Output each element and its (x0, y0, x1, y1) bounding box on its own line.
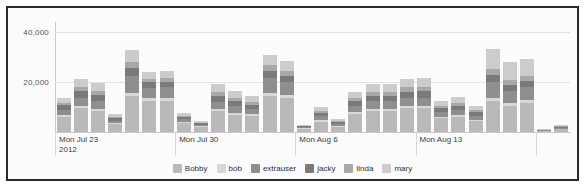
bar-stack[interactable] (554, 125, 568, 132)
legend-item[interactable]: linda (344, 164, 373, 173)
bar-segment (125, 76, 139, 93)
legend-label: Bobby (185, 164, 208, 173)
bar-segment (486, 101, 500, 132)
bar-segment (280, 76, 294, 83)
plot-area: 20,00040,000 (55, 22, 570, 132)
x-axis-group-label: Mon Aug 6 (299, 135, 337, 145)
bar-stack[interactable] (400, 79, 414, 132)
bar-stack[interactable] (434, 101, 448, 132)
bar-segment (142, 72, 156, 79)
bar-stack[interactable] (228, 91, 242, 132)
x-axis-label-line: Mon Jul 23 (59, 135, 98, 145)
bar-stack[interactable] (280, 61, 294, 132)
x-axis-group-label: Mon Aug 13 (420, 135, 463, 145)
bar-segment (520, 103, 534, 132)
legend-item[interactable]: mary (382, 164, 412, 173)
bar-stack[interactable] (331, 119, 345, 132)
bar-segment (108, 124, 122, 132)
bar-stack[interactable] (125, 50, 139, 132)
bar-segment (91, 83, 105, 91)
legend-swatch-icon (344, 164, 353, 173)
bar-segment (125, 96, 139, 132)
bar-stack[interactable] (74, 79, 88, 133)
bar-stack[interactable] (383, 84, 397, 132)
bar-stack[interactable] (366, 84, 380, 132)
bar-stack[interactable] (486, 49, 500, 132)
bar-segment (57, 117, 71, 132)
x-axis: Mon Jul 232012Mon Jul 30Mon Aug 6Mon Aug… (55, 132, 570, 158)
bar-segment (486, 75, 500, 83)
bar-segment (263, 96, 277, 132)
bar-segment (91, 101, 105, 109)
legend-item[interactable]: jacky (305, 164, 335, 173)
bar-segment (503, 106, 517, 132)
bar-segment (417, 108, 431, 132)
bar-segment (91, 111, 105, 132)
bar-stack[interactable] (211, 84, 225, 132)
bar-stack[interactable] (194, 121, 208, 132)
x-axis-label-year: 2012 (59, 145, 98, 155)
bar-segment (469, 121, 483, 132)
bar-stack[interactable] (142, 72, 156, 133)
bar-stack[interactable] (503, 62, 517, 132)
x-axis-tick (416, 132, 417, 156)
bar-segment (74, 98, 88, 106)
bar-stack[interactable] (91, 83, 105, 132)
bar-segment (125, 68, 139, 76)
legend-label: extrauser (263, 164, 296, 173)
bar-segment (245, 116, 259, 132)
bar-segment (314, 122, 328, 133)
x-axis-tick (55, 132, 56, 156)
bar-segment (160, 87, 174, 98)
legend-item[interactable]: Bobby (173, 164, 208, 173)
bar-stack[interactable] (57, 98, 71, 132)
bar-segment (434, 118, 448, 132)
x-axis-tick (175, 132, 176, 156)
x-axis-tick (536, 132, 537, 156)
bar-segment (366, 84, 380, 92)
bar-segment (520, 59, 534, 76)
bar-stack[interactable] (245, 96, 259, 132)
bar-stack[interactable] (160, 71, 174, 132)
bar-segment (228, 115, 242, 133)
bar-segment (520, 81, 534, 88)
bar-stack[interactable] (297, 125, 311, 132)
bar-segment (348, 114, 362, 132)
legend-swatch-icon (305, 164, 314, 173)
legend-item[interactable]: extrauser (251, 164, 296, 173)
bar-stack[interactable] (417, 78, 431, 132)
bar-segment (503, 62, 517, 81)
legend-label: mary (394, 164, 412, 173)
bar-segment (74, 108, 88, 132)
bar-stack[interactable] (451, 97, 465, 132)
bar-segment (177, 123, 191, 133)
bar-segment (142, 88, 156, 99)
bar-segment (211, 84, 225, 92)
bar-segment (383, 84, 397, 92)
bar-stack[interactable] (469, 106, 483, 132)
legend-swatch-icon (173, 164, 182, 173)
bar-stack[interactable] (314, 107, 328, 133)
bar-stack[interactable] (520, 59, 534, 132)
bar-segment (160, 71, 174, 78)
chart-card: 20,00040,000 Mon Jul 232012Mon Jul 30Mon… (8, 8, 577, 179)
bar-segment (383, 111, 397, 132)
bar-segment (486, 82, 500, 98)
bar-segment (417, 78, 431, 87)
legend-swatch-icon (217, 164, 226, 173)
bar-segment (211, 111, 225, 132)
x-axis-label-line: Mon Jul 30 (179, 135, 218, 145)
bar-segment (280, 61, 294, 71)
bar-segment (366, 111, 380, 132)
bar-segment (451, 117, 465, 132)
legend-item[interactable]: bob (217, 164, 242, 173)
x-axis-group-label: Mon Jul 30 (179, 135, 218, 145)
bar-segment (211, 102, 225, 109)
bar-stack[interactable] (177, 113, 191, 132)
bar-stack[interactable] (348, 92, 362, 132)
x-axis-tick (295, 132, 296, 156)
bar-stack[interactable] (263, 55, 277, 133)
bar-stack[interactable] (108, 114, 122, 132)
x-axis-label-line: Mon Aug 13 (420, 135, 463, 145)
bar-segment (400, 79, 414, 87)
